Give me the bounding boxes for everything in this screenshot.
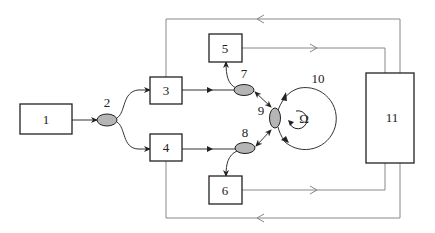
svg-text:Ω: Ω [299,111,309,126]
path-7-to-5 [226,62,236,88]
block-5-label: 5 [222,41,229,56]
block-3-label: 3 [163,83,170,98]
block-6-label: 6 [222,183,229,198]
feedback-loop-top [166,15,400,77]
coupler-8 [235,143,255,154]
coupler-2-label: 2 [104,95,111,110]
rotation-icon: Ω [288,111,309,129]
block-4-label: 4 [163,140,170,155]
block-11-label: 11 [386,110,399,125]
path-8-to-9 [256,130,271,146]
coupler-7 [234,85,254,96]
coupler-8-label: 8 [242,125,249,140]
coupler-7-label: 7 [241,66,248,81]
coupler-9-label: 9 [258,103,265,118]
signal-line-5-to-11 [242,44,385,73]
diagram-canvas: Ω 1 3 4 5 6 11 2 7 8 9 10 [0,0,435,233]
path-2-to-3 [117,90,150,118]
path-8-to-6 [226,151,237,176]
coil-10-label: 10 [312,71,325,86]
coupler-2 [97,114,117,126]
signal-line-6-to-11 [242,163,385,194]
feedback-loop-bottom [166,161,400,222]
coupler-9 [270,108,281,128]
path-2-to-4 [117,122,150,149]
block-1-label: 1 [43,112,50,127]
